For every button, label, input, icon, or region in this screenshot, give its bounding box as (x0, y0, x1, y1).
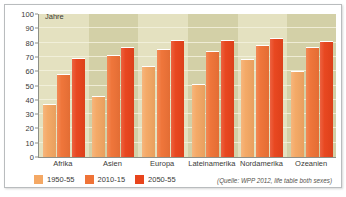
y-axis-tick-label: 20 (25, 124, 34, 133)
x-axis-tick-label: Afrika (53, 159, 72, 168)
y-axis-tick-label: 40 (25, 95, 34, 104)
source-note: (Quelle: WPP 2012, life table both sexes… (217, 177, 332, 184)
chart-figure: 0102030405060708090100 Jahre AfrikaAsien… (0, 0, 346, 197)
chart-legend: 1950-552010-152050-55 (34, 175, 176, 184)
bar (241, 59, 254, 157)
y-axis-tick-label: 60 (25, 67, 34, 76)
y-axis-title: Jahre (43, 12, 66, 21)
bar (270, 38, 283, 157)
bar (107, 55, 120, 157)
bar-group (238, 14, 288, 157)
bar (221, 40, 234, 157)
legend-item: 1950-55 (34, 175, 75, 184)
legend-swatch (34, 175, 43, 184)
bar (256, 45, 269, 157)
x-axis-tick-label: Europa (150, 159, 174, 168)
legend-swatch (135, 175, 144, 184)
bar (320, 41, 333, 157)
x-axis-tick-label: Nordamerika (240, 159, 283, 168)
bar-group (138, 14, 188, 157)
legend-item: 2010-15 (85, 175, 126, 184)
bar (92, 96, 105, 157)
bar (291, 71, 304, 157)
y-axis-tick-label: 0 (30, 153, 34, 162)
bar (306, 47, 319, 157)
x-axis-tick-label: Asien (103, 159, 122, 168)
legend-label: 2010-15 (98, 175, 126, 184)
bar (206, 51, 219, 157)
y-axis-tick-label: 80 (25, 38, 34, 47)
plot-area (38, 14, 336, 157)
bar-group (188, 14, 238, 157)
x-axis-tick-label: Ozeanien (295, 159, 327, 168)
legend-label: 2050-55 (148, 175, 176, 184)
bar (121, 47, 134, 157)
y-axis: 0102030405060708090100 (5, 14, 38, 157)
bar (192, 84, 205, 157)
x-axis-tick-label: Lateinamerika (188, 159, 235, 168)
y-axis-tick-label: 30 (25, 110, 34, 119)
legend-swatch (85, 175, 94, 184)
bar-group (89, 14, 139, 157)
y-axis-tick-label: 90 (25, 24, 34, 33)
y-axis-tick-label: 70 (25, 52, 34, 61)
bar (171, 40, 184, 157)
bar-group (287, 14, 336, 157)
legend-label: 1950-55 (47, 175, 75, 184)
legend-item: 2050-55 (135, 175, 176, 184)
chart-frame: 0102030405060708090100 Jahre AfrikaAsien… (4, 4, 342, 188)
y-axis-tick-label: 100 (21, 10, 34, 19)
x-axis-labels: AfrikaAsienEuropaLateinamerikaNordamerik… (38, 159, 336, 173)
x-axis-line (38, 157, 336, 158)
bar (72, 58, 85, 157)
bar (142, 66, 155, 157)
bar (157, 49, 170, 157)
y-axis-tick-label: 50 (25, 81, 34, 90)
bar-group (39, 14, 89, 157)
bar (57, 74, 70, 157)
bar (43, 104, 56, 157)
y-axis-tick-label: 10 (25, 138, 34, 147)
